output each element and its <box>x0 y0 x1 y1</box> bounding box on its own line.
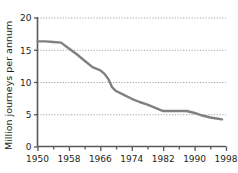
line-chart: Million journeys per annum 05101520 1950… <box>0 0 238 173</box>
y-tick-label-5: 5 <box>26 110 32 120</box>
gridlines <box>38 18 227 115</box>
x-axis-ticks: 1950195819661974198219901998 <box>26 147 238 164</box>
x-tick-label-1966: 1966 <box>89 154 112 164</box>
y-tick-label-15: 15 <box>20 46 31 56</box>
y-tick-label-0: 0 <box>26 142 32 152</box>
x-tick-label-1950: 1950 <box>26 154 49 164</box>
y-tick-label-10: 10 <box>20 78 32 88</box>
x-tick-label-1982: 1982 <box>152 154 175 164</box>
chart-container: Million journeys per annum 05101520 1950… <box>0 0 238 173</box>
y-axis-ticks: 05101520 <box>20 13 37 152</box>
x-tick-label-1958: 1958 <box>57 154 80 164</box>
x-tick-label-1974: 1974 <box>120 154 143 164</box>
x-tick-label-1990: 1990 <box>183 154 206 164</box>
x-tick-label-1998: 1998 <box>215 154 238 164</box>
y-axis-title: Million journeys per annum <box>3 21 14 150</box>
data-line-series-0 <box>38 41 223 119</box>
y-tick-label-20: 20 <box>20 13 32 23</box>
